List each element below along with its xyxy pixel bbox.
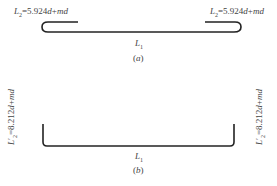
left-hook-length-label: L2=5.924d+md bbox=[14, 7, 68, 18]
right-hook bbox=[205, 22, 241, 32]
left-hook bbox=[42, 22, 78, 32]
var: L bbox=[254, 140, 264, 145]
figure-b-bar bbox=[43, 124, 234, 146]
sub: 1 bbox=[140, 44, 143, 50]
left-leg bbox=[43, 124, 47, 146]
paren: ) bbox=[141, 165, 144, 175]
caption-b: (b) bbox=[133, 166, 144, 175]
expr: =8.212 bbox=[254, 110, 264, 135]
right-leg-length-label: L′2=8.212d+md bbox=[255, 89, 266, 145]
md: md bbox=[254, 89, 264, 100]
d: d bbox=[6, 105, 16, 110]
figure-a-bar bbox=[42, 22, 241, 32]
sub: 2 bbox=[260, 135, 266, 138]
d: d bbox=[254, 105, 264, 110]
plus: + bbox=[6, 100, 16, 105]
md: md bbox=[253, 6, 264, 16]
sub: 2 bbox=[12, 135, 18, 138]
prime: ′ bbox=[6, 138, 16, 140]
var: L bbox=[6, 140, 16, 145]
expr: =5.924 bbox=[22, 6, 47, 16]
caption-a: (a) bbox=[133, 54, 144, 63]
md: md bbox=[57, 6, 68, 16]
paren: ) bbox=[141, 53, 144, 63]
expr: =5.924 bbox=[218, 6, 243, 16]
expr: =8.212 bbox=[6, 110, 16, 135]
md: md bbox=[6, 89, 16, 100]
right-leg bbox=[230, 124, 234, 146]
prime: ′ bbox=[254, 138, 264, 140]
sub: 1 bbox=[140, 157, 143, 163]
length-label-a: L1 bbox=[135, 39, 143, 50]
right-hook-length-label: L2=5.924d+md bbox=[210, 7, 264, 18]
length-label-b: L1 bbox=[135, 152, 143, 163]
plus: + bbox=[254, 100, 264, 105]
left-leg-length-label: L′2=8.212d+md bbox=[7, 89, 18, 145]
